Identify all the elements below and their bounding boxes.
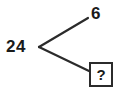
number-bond-diagram: 24 6 ? [0,0,121,95]
answer-box[interactable]: ? [89,62,113,87]
upper-branch-line [39,18,88,47]
unknown-part-label: ? [91,64,111,85]
known-part-label: 6 [91,5,100,22]
lower-branch-line [39,47,89,71]
whole-number-label: 24 [6,38,26,55]
